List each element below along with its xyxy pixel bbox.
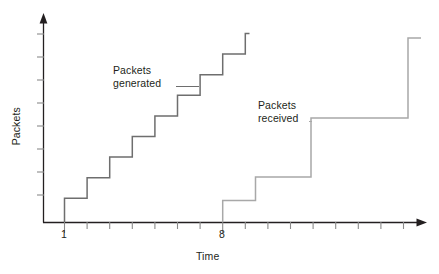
annotation-generated-line1: Packets (113, 64, 151, 76)
annotation-packets-generated: Packetsgenerated (113, 64, 161, 89)
packets-vs-time-chart: Packetsgenerated Packetsreceived 1 8 Tim… (0, 0, 439, 274)
series-packets-received (223, 38, 421, 222)
x-tick-label-1: 1 (61, 228, 67, 241)
annotation-packets-received: Packetsreceived (258, 99, 299, 124)
x-axis-arrow-icon (417, 218, 428, 226)
x-axis-ticks (65, 222, 404, 233)
annotation-generated-line2: generated (113, 77, 161, 89)
x-tick-label-8: 8 (219, 228, 225, 241)
axes-group (40, 13, 427, 227)
annotation-received-line2: received (258, 112, 299, 124)
x-axis-title: Time (196, 250, 219, 263)
series-packets-generated (65, 34, 250, 223)
y-axis-arrow-icon (40, 13, 48, 24)
y-axis-title: Packets (10, 96, 23, 156)
annotation-received-line1: Packets (258, 99, 296, 111)
